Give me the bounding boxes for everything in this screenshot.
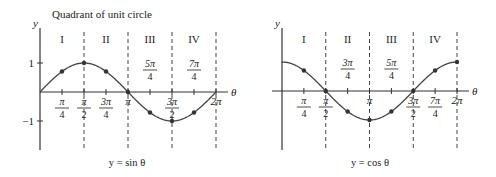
quadrant-label: II bbox=[102, 33, 110, 45]
y-tick-label: −1 bbox=[22, 115, 34, 127]
svg-text:4: 4 bbox=[104, 109, 109, 120]
svg-text:π: π bbox=[125, 95, 131, 107]
data-point bbox=[82, 61, 86, 65]
quadrant-label: II bbox=[344, 33, 352, 45]
data-point bbox=[302, 68, 306, 72]
x-tick-label: 5π4 bbox=[384, 57, 398, 81]
data-point bbox=[389, 109, 393, 113]
svg-text:4: 4 bbox=[433, 108, 438, 119]
quadrant-label: III bbox=[386, 33, 397, 45]
data-point bbox=[60, 69, 64, 73]
y-axis-label: y bbox=[274, 17, 280, 29]
x-tick-label: 7π4 bbox=[187, 58, 201, 82]
svg-text:2: 2 bbox=[411, 108, 416, 119]
x-axis-label: θ bbox=[231, 86, 237, 98]
svg-text:4: 4 bbox=[389, 70, 394, 81]
data-point bbox=[345, 109, 349, 113]
svg-text:3π: 3π bbox=[100, 96, 112, 107]
x-tick-label: π bbox=[125, 95, 131, 107]
data-point bbox=[148, 110, 152, 114]
x-tick-label: π bbox=[367, 94, 373, 106]
svg-text:5π: 5π bbox=[386, 57, 397, 68]
svg-text:2: 2 bbox=[170, 109, 175, 120]
y-axis-label: y bbox=[32, 17, 38, 29]
x-tick-label: 3π2 bbox=[406, 95, 420, 119]
x-tick-label: π2 bbox=[77, 96, 91, 120]
svg-text:3π: 3π bbox=[342, 57, 354, 68]
svg-text:π: π bbox=[301, 95, 307, 106]
x-tick-label: 3π4 bbox=[341, 57, 355, 81]
quadrant-label: IV bbox=[188, 33, 200, 45]
data-point bbox=[433, 68, 437, 72]
svg-text:7π: 7π bbox=[430, 95, 441, 106]
svg-text:4: 4 bbox=[60, 109, 65, 120]
quadrant-label: I bbox=[60, 33, 64, 45]
svg-text:π: π bbox=[367, 94, 373, 106]
svg-text:2: 2 bbox=[323, 108, 328, 119]
quadrant-label: III bbox=[145, 33, 156, 45]
x-tick-label: π4 bbox=[55, 96, 69, 120]
svg-text:2: 2 bbox=[82, 109, 87, 120]
data-point bbox=[455, 60, 459, 64]
x-tick-label: 5π4 bbox=[143, 58, 157, 82]
trig-figure: yθIIIIIIIV1−1π4π23π4π5π43π27π42πQuadrant… bbox=[0, 0, 496, 177]
data-point bbox=[104, 69, 108, 73]
svg-text:4: 4 bbox=[192, 71, 197, 82]
x-tick-label: 3π4 bbox=[99, 96, 113, 120]
x-tick-label: π2 bbox=[319, 95, 333, 119]
svg-text:π: π bbox=[323, 95, 329, 106]
svg-text:3π: 3π bbox=[166, 96, 178, 107]
data-point bbox=[126, 90, 130, 94]
svg-text:5π: 5π bbox=[145, 58, 156, 69]
svg-text:3π: 3π bbox=[407, 95, 419, 106]
cosine-chart: yθIIIIIIIVπ4π23π4π5π43π27π42πy = cos θ bbox=[272, 17, 478, 168]
svg-text:4: 4 bbox=[301, 108, 306, 119]
data-point bbox=[324, 89, 328, 93]
chart-caption: y = cos θ bbox=[351, 157, 389, 168]
x-tick-label: 2π bbox=[451, 94, 463, 106]
data-point bbox=[192, 110, 196, 114]
svg-text:4: 4 bbox=[148, 71, 153, 82]
sine-chart: yθIIIIIIIV1−1π4π23π4π5π43π27π42πQuadrant… bbox=[22, 8, 237, 168]
quadrant-label: I bbox=[302, 33, 306, 45]
data-point bbox=[170, 119, 174, 123]
svg-text:π: π bbox=[59, 96, 65, 107]
svg-text:7π: 7π bbox=[189, 58, 200, 69]
chart-header: Quadrant of unit circle bbox=[52, 8, 152, 20]
svg-text:2π: 2π bbox=[451, 94, 463, 106]
y-tick-label: 1 bbox=[29, 57, 35, 69]
data-point bbox=[367, 118, 371, 122]
quadrant-label: IV bbox=[429, 33, 441, 45]
data-point bbox=[411, 89, 415, 93]
svg-text:π: π bbox=[81, 96, 87, 107]
x-tick-label: 7π4 bbox=[428, 95, 442, 119]
chart-caption: y = sin θ bbox=[109, 157, 145, 168]
x-axis-label: θ bbox=[472, 85, 478, 97]
x-tick-label: π4 bbox=[297, 95, 311, 119]
x-tick-label: 3π2 bbox=[165, 96, 179, 120]
svg-text:4: 4 bbox=[345, 70, 350, 81]
